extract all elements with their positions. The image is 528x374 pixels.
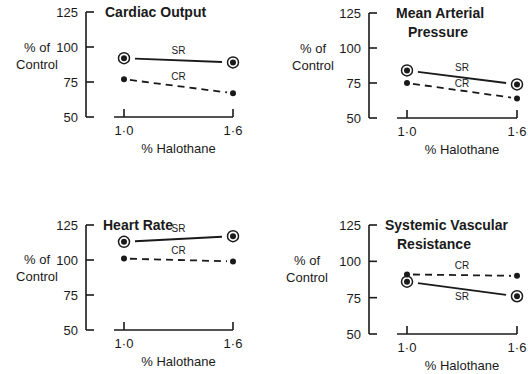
panel-title: Cardiac Output [105,4,206,20]
y-tick-label: 50 [347,327,361,342]
y-tick-label: 125 [339,218,361,233]
cr-marker-dot [230,90,236,96]
y-axis-title-line1: % of [294,253,320,268]
y-axis-title-line1: % of [300,41,326,56]
y-axis-title-line2: Control [286,270,328,285]
cr-marker-dot [230,258,236,264]
x-tick-label: 1·0 [398,340,417,355]
y-axis-title-line2: Control [292,58,334,73]
x-axis-title: % Halothane [141,141,215,156]
cr-marker-dot [404,80,410,86]
y-tick-label: 125 [339,6,361,21]
x-axis-title: % Halothane [141,354,215,369]
sr-marker-dot [514,293,520,299]
cr-marker-dot [514,95,520,101]
cr-series-label: CR [455,78,469,89]
x-tick-label: 1·0 [115,336,134,351]
figure: 12510075501·01·6% Halothane% ofControlCa… [0,0,528,374]
x-tick-label: 1·6 [508,340,527,355]
x-tick-label: 1·0 [115,123,134,138]
x-axis-title: % Halothane [425,358,499,373]
y-tick-label: 100 [56,253,78,268]
cr-series-label: CR [455,260,469,271]
y-tick-label: 75 [347,291,361,306]
cr-marker-dot [121,256,127,262]
y-tick-label: 100 [339,41,361,56]
panel-cardiac-output: 12510075501·01·6% Halothane% ofControlCa… [16,4,242,156]
panel-systemic-vascular-resistance: 12510075501·01·6% Halothane% ofControlSy… [286,217,526,373]
panel-title: Pressure [408,24,468,40]
sr-series-label: SR [455,291,469,302]
y-axis-title-line1: % of [24,40,50,55]
y-axis-title-line2: Control [16,57,58,72]
y-tick-label: 100 [56,40,78,55]
four-panel-line-chart: 12510075501·01·6% Halothane% ofControlCa… [0,0,528,374]
x-tick-label: 1·6 [224,123,243,138]
cr-marker-dot [514,273,520,279]
panel-title: Mean Arterial [396,5,484,21]
sr-series-label: SR [455,62,469,73]
x-axis-title: % Halothane [425,142,499,157]
y-axis-title-line2: Control [16,269,58,284]
y-tick-label: 75 [347,76,361,91]
panel-heart-rate: 12510075501·01·6% Halothane% ofControlHe… [16,217,242,369]
y-tick-label: 50 [64,110,78,125]
y-tick-label: 100 [339,254,361,269]
sr-marker-dot [404,67,410,73]
x-tick-label: 1·6 [508,124,527,139]
y-axis-title-line1: % of [24,252,50,267]
sr-series-label: SR [172,223,186,234]
x-tick-label: 1·0 [398,124,417,139]
panel-mean-arterial-pressure: 12510075501·01·6% Halothane% ofControlMe… [292,5,526,157]
panel-title: Systemic Vascular [385,217,509,233]
sr-marker-dot [121,55,127,61]
y-tick-label: 50 [347,111,361,126]
y-tick-label: 125 [56,5,78,20]
sr-series-label: SR [172,45,186,56]
sr-marker-dot [230,233,236,239]
panel-title: Heart Rate [103,217,173,233]
sr-series-line [135,237,222,241]
cr-series-label: CR [171,71,185,82]
y-tick-label: 75 [64,288,78,303]
cr-series-line [130,259,227,261]
x-tick-label: 1·6 [224,336,243,351]
y-tick-label: 50 [64,323,78,338]
sr-marker-dot [121,239,127,245]
y-tick-label: 75 [64,75,78,90]
cr-series-line [413,274,511,275]
cr-series-label: CR [171,245,185,256]
cr-marker-dot [121,76,127,82]
panel-title: Resistance [397,236,471,252]
sr-marker-dot [404,279,410,285]
sr-marker-dot [514,81,520,87]
y-tick-label: 125 [56,218,78,233]
cr-marker-dot [404,271,410,277]
sr-series-line [135,59,222,62]
sr-marker-dot [230,59,236,65]
